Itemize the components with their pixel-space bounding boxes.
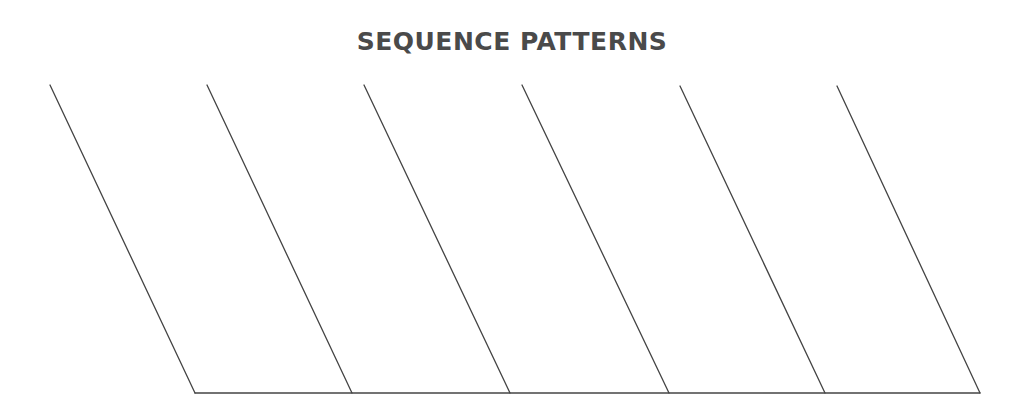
slanted-line-6 xyxy=(837,86,980,393)
slanted-lines xyxy=(50,85,980,393)
sequence-pattern-diagram xyxy=(0,0,1024,411)
slanted-line-1 xyxy=(50,85,195,393)
slanted-line-3 xyxy=(364,85,510,393)
slanted-line-2 xyxy=(207,85,352,393)
slanted-line-4 xyxy=(522,85,669,393)
slanted-line-5 xyxy=(680,86,825,393)
